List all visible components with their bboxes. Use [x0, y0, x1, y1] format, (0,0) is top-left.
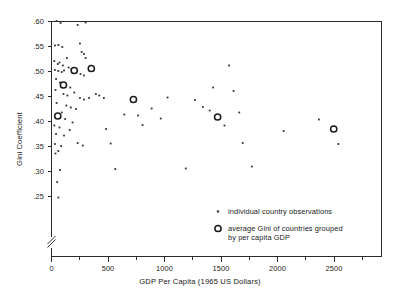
data-point-observation — [75, 108, 77, 110]
legend-label-averages-line2: by per capita GDP — [228, 233, 290, 242]
data-point-observation — [233, 90, 235, 92]
legend-label-observations: individual country observations — [228, 207, 332, 216]
data-point-observation — [57, 63, 59, 65]
x-tick-label-2000: 2000 — [269, 264, 286, 273]
data-point-group-average — [215, 114, 221, 120]
data-point-observation — [54, 69, 56, 71]
data-point-observation — [318, 119, 320, 121]
data-point-observation — [82, 145, 84, 147]
data-point-observation — [59, 127, 61, 129]
data-point-observation — [57, 150, 59, 152]
data-point-observation — [85, 22, 87, 24]
data-point-observation — [228, 65, 230, 67]
data-point-observation — [95, 93, 97, 95]
data-point-observation — [63, 70, 65, 72]
observations-layer — [53, 20, 339, 198]
x-tick-label-0: 0 — [49, 264, 53, 273]
legend: individual country observations average … — [215, 207, 343, 242]
y-tick-label-25: .25 — [33, 192, 44, 201]
data-point-observation — [72, 122, 74, 124]
data-point-observation — [57, 70, 59, 72]
data-point-observation — [69, 87, 71, 89]
data-point-observation — [64, 118, 66, 120]
data-point-observation — [60, 145, 62, 147]
data-point-observation — [55, 133, 57, 135]
plot-frame — [48, 22, 382, 257]
data-point-observation — [242, 142, 244, 144]
data-point-observation — [114, 168, 116, 170]
data-point-observation — [61, 112, 63, 114]
y-tick-label-60: .60 — [33, 17, 44, 26]
y-axis-ticks: .60 .55 .50 .45 .40 .35 .30 .25 — [33, 17, 51, 201]
data-point-group-average — [331, 126, 337, 132]
group-averages-layer — [55, 65, 337, 132]
y-tick-label-50: .50 — [33, 67, 44, 76]
data-point-observation — [79, 97, 81, 99]
y-tick-label-40: .40 — [33, 117, 44, 126]
data-point-observation — [77, 24, 79, 26]
data-point-observation — [63, 93, 65, 95]
data-point-observation — [55, 78, 57, 80]
data-point-observation — [81, 51, 83, 53]
data-point-observation — [103, 97, 105, 99]
data-point-observation — [53, 60, 55, 62]
data-point-observation — [151, 108, 153, 110]
data-point-observation — [123, 114, 125, 116]
data-point-observation — [202, 106, 204, 108]
data-point-observation — [68, 67, 70, 69]
y-axis-title: Gini Coefficient — [15, 111, 24, 165]
data-point-observation — [67, 95, 69, 97]
data-point-observation — [55, 89, 57, 91]
data-point-group-average — [130, 96, 136, 102]
y-tick-label-55: .55 — [33, 42, 44, 51]
data-point-observation — [54, 45, 56, 47]
data-point-observation — [83, 99, 85, 101]
data-point-group-average — [55, 113, 61, 119]
data-point-observation — [77, 142, 79, 144]
chart-canvas: .60 .55 .50 .45 .40 .35 .30 .25 0 500 1 — [0, 0, 402, 296]
data-point-group-average — [60, 82, 66, 88]
data-point-observation — [85, 57, 87, 59]
data-point-observation — [83, 53, 85, 55]
data-point-observation — [73, 92, 75, 94]
data-point-observation — [69, 129, 71, 131]
data-point-observation — [110, 143, 112, 145]
data-point-observation — [62, 65, 64, 67]
data-point-observation — [337, 143, 339, 145]
data-point-observation — [57, 197, 59, 199]
y-tick-label-35: .35 — [33, 142, 44, 151]
data-point-observation — [137, 115, 139, 117]
x-tick-label-2500: 2500 — [326, 264, 343, 273]
data-point-observation — [63, 135, 65, 137]
data-point-observation — [83, 75, 85, 77]
gini-gdp-scatter-figure: .60 .55 .50 .45 .40 .35 .30 .25 0 500 1 — [0, 0, 402, 296]
legend-open-circle-icon — [215, 225, 221, 231]
x-axis-title: GDP Per Capita (1965 US Dollars) — [139, 277, 261, 286]
legend-label-averages-line1: average Gini of countries grouped — [228, 224, 343, 233]
data-point-observation — [59, 62, 61, 64]
data-point-observation — [194, 99, 196, 101]
y-tick-label-30: .30 — [33, 167, 44, 176]
x-tick-label-1000: 1000 — [156, 264, 173, 273]
data-point-observation — [98, 95, 100, 97]
data-point-observation — [79, 43, 81, 45]
data-point-observation — [56, 181, 58, 183]
data-point-observation — [105, 128, 107, 130]
data-point-observation — [61, 46, 63, 48]
data-point-observation — [238, 112, 240, 114]
data-point-observation — [59, 169, 61, 171]
data-point-observation — [56, 102, 58, 104]
data-point-observation — [57, 44, 59, 46]
data-point-observation — [185, 168, 187, 170]
data-point-observation — [251, 166, 253, 168]
x-axis-ticks: 0 500 1000 1500 2000 2500 — [49, 257, 362, 274]
data-point-observation — [61, 71, 63, 73]
data-point-observation — [65, 105, 67, 107]
data-point-observation — [66, 57, 68, 59]
x-tick-label-500: 500 — [102, 264, 115, 273]
data-point-observation — [224, 125, 226, 127]
data-point-group-average — [88, 65, 94, 71]
data-point-observation — [80, 73, 82, 75]
data-point-observation — [142, 124, 144, 126]
data-point-observation — [167, 97, 169, 99]
